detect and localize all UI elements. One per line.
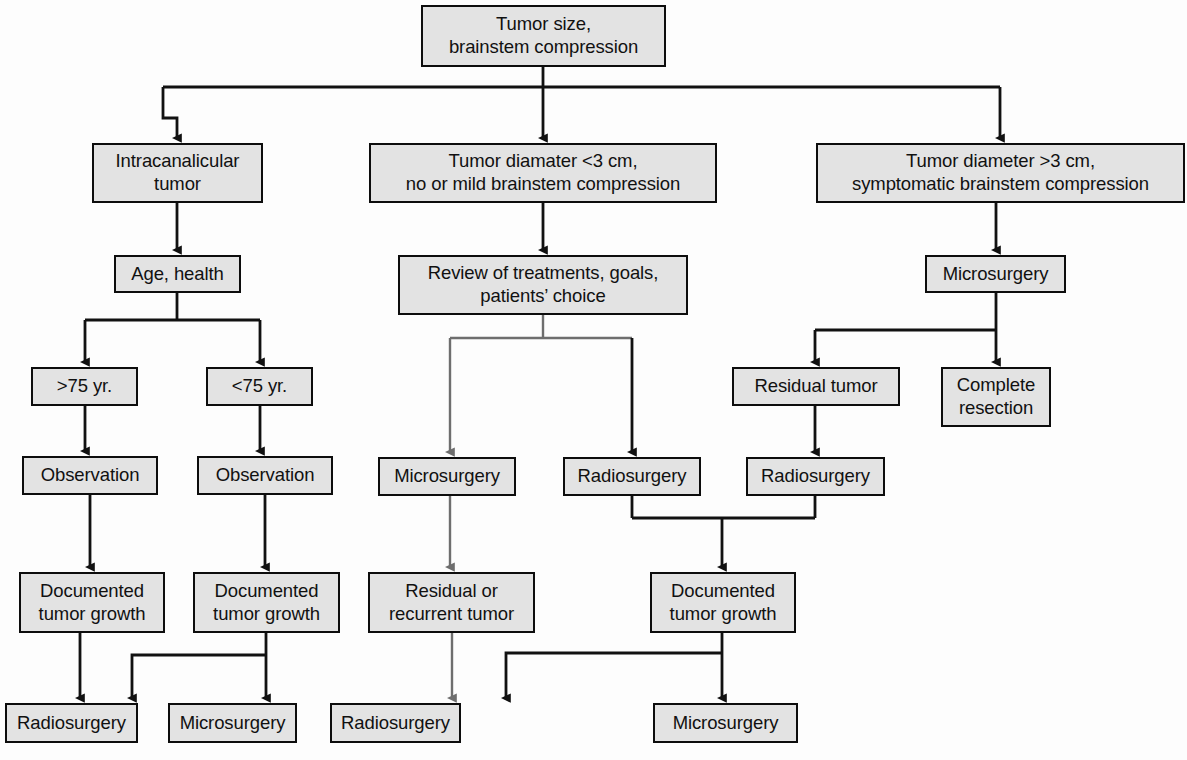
node-radio_review[interactable]: Radiosurgery — [563, 457, 701, 496]
node-label: Radiosurgery — [761, 465, 870, 488]
node-label: Microsurgery — [180, 712, 286, 735]
node-residual_recur[interactable]: Residual or recurrent tumor — [368, 572, 535, 633]
node-label: Tumor diameter >3 cm, symptomatic brains… — [852, 150, 1149, 195]
node-age_under75[interactable]: <75 yr. — [206, 367, 313, 406]
node-growth_left[interactable]: Documented tumor growth — [19, 572, 165, 633]
node-label: Radiosurgery — [578, 465, 687, 488]
flowchart-canvas: Tumor size, brainstem compressionIntraca… — [0, 0, 1187, 760]
node-age_health[interactable]: Age, health — [114, 255, 241, 293]
node-growth_right[interactable]: Documented tumor growth — [193, 572, 340, 633]
node-label: Age, health — [131, 263, 224, 286]
node-label: Documented tumor growth — [39, 580, 146, 625]
node-radio_final_b[interactable]: Radiosurgery — [330, 703, 461, 743]
node-label: Tumor size, brainstem compression — [449, 13, 638, 58]
node-micro_review[interactable]: Microsurgery — [378, 457, 516, 496]
node-large_tumor[interactable]: Tumor diameter >3 cm, symptomatic brains… — [816, 143, 1185, 203]
node-growth_surgical[interactable]: Documented tumor growth — [650, 572, 796, 633]
node-label: Residual or recurrent tumor — [389, 580, 514, 625]
node-label: Radiosurgery — [17, 712, 126, 735]
node-radio_final_a[interactable]: Radiosurgery — [5, 703, 138, 743]
edge-growth-surgical-cross-radio — [506, 653, 722, 698]
node-micro_final_b[interactable]: Microsurgery — [653, 703, 798, 743]
node-micro_large[interactable]: Microsurgery — [925, 255, 1066, 293]
node-root[interactable]: Tumor size, brainstem compression — [421, 5, 666, 67]
node-obs_left[interactable]: Observation — [22, 456, 158, 495]
node-obs_right[interactable]: Observation — [197, 456, 333, 495]
node-label: Documented tumor growth — [213, 580, 320, 625]
edge-growth-right-cross-to-radio — [132, 655, 266, 698]
node-label: Microsurgery — [394, 465, 500, 488]
node-intracanalicular[interactable]: Intracanalicular tumor — [92, 143, 263, 203]
node-radio_residual[interactable]: Radiosurgery — [746, 457, 885, 496]
node-review[interactable]: Review of treatments, goals, patients’ c… — [398, 255, 688, 315]
node-label: Microsurgery — [943, 263, 1049, 286]
node-label: Intracanalicular tumor — [116, 150, 240, 195]
node-label: Complete resection — [957, 374, 1035, 419]
node-label: Review of treatments, goals, patients’ c… — [428, 262, 659, 307]
node-label: Residual tumor — [754, 375, 877, 398]
node-small_tumor[interactable]: Tumor diamater <3 cm, no or mild brainst… — [369, 143, 717, 203]
node-micro_final_a[interactable]: Microsurgery — [168, 703, 297, 743]
node-label: <75 yr. — [232, 375, 287, 398]
node-label: Documented tumor growth — [670, 580, 777, 625]
node-label: Observation — [41, 464, 140, 487]
edge-bus-to-intracanalicular — [163, 87, 177, 138]
node-label: Radiosurgery — [341, 712, 450, 735]
node-label: Observation — [216, 464, 315, 487]
node-label: Microsurgery — [673, 712, 779, 735]
node-label: Tumor diamater <3 cm, no or mild brainst… — [406, 150, 680, 195]
node-age_over75[interactable]: >75 yr. — [31, 367, 138, 406]
node-complete_resect[interactable]: Complete resection — [941, 367, 1051, 427]
node-residual_tumor[interactable]: Residual tumor — [732, 367, 900, 406]
node-label: >75 yr. — [57, 375, 112, 398]
